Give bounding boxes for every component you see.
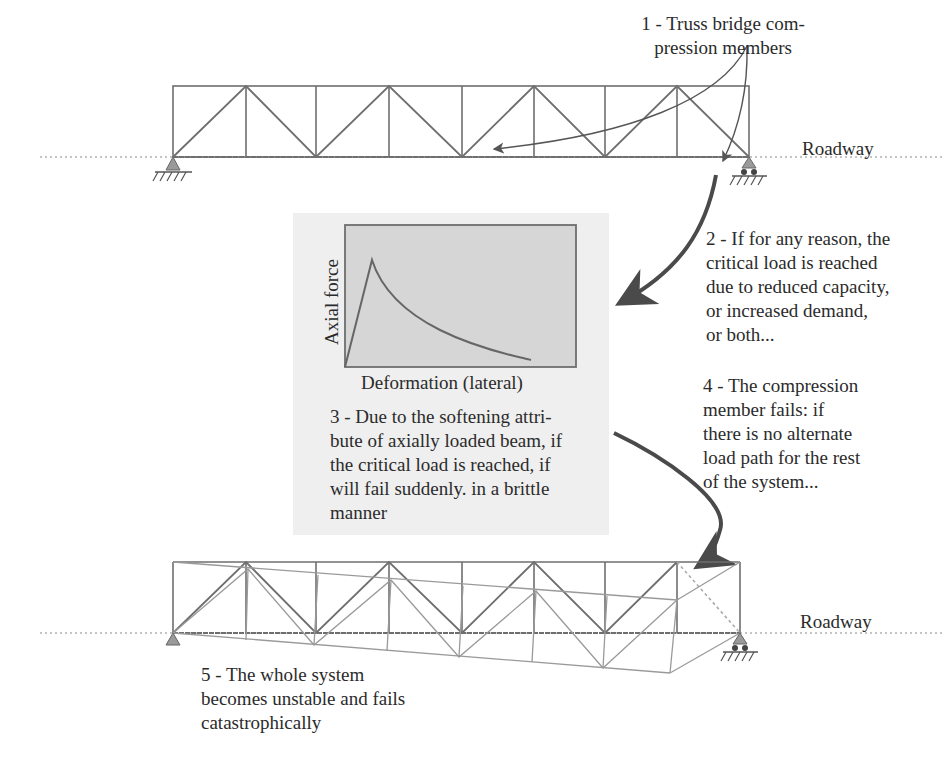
truss-frame xyxy=(173,86,749,157)
pointer-arrow-1a xyxy=(494,46,747,149)
roller-support-bottom-right xyxy=(721,633,758,661)
softening-chart xyxy=(345,225,576,367)
flow-arrow-2 xyxy=(622,175,716,302)
annotation-step-3: 3 - Due to the softening attri- bute of … xyxy=(330,405,562,525)
annotation-step-4: 4 - The compression member fails: if the… xyxy=(703,374,860,494)
roadway-label-top: Roadway xyxy=(802,137,874,161)
chart-x-axis-label: Deformation (lateral) xyxy=(361,372,523,394)
pin-support-top-left xyxy=(153,157,192,181)
annotation-step-5: 5 - The whole system becomes unstable an… xyxy=(201,663,405,735)
annotation-step-1: 1 - Truss bridge com- pression members xyxy=(613,12,833,60)
roller-support-top-right xyxy=(730,157,767,185)
roadway-label-bottom: Roadway xyxy=(800,610,872,634)
chart-y-axis-label: Axial force xyxy=(321,259,343,345)
annotation-step-2: 2 - If for any reason, the critical load… xyxy=(706,227,890,347)
chart-plot-area xyxy=(345,225,576,367)
pin-support-bottom-left xyxy=(166,633,180,645)
truss-diagonals xyxy=(173,86,749,157)
